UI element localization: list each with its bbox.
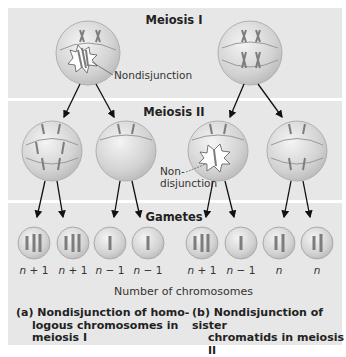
nondisjunction-label-2a: Non- [160, 166, 185, 177]
gamete-label-5: n + 1 [188, 264, 217, 276]
gamete-label-8: n [314, 264, 321, 276]
gamete-label-7: n [276, 264, 283, 276]
gamete-7 [263, 227, 295, 259]
meiosis-2-cell-4 [267, 121, 327, 181]
gamete-label-2: n + 1 [59, 264, 88, 276]
gamete-label-3: n − 1 [96, 264, 125, 276]
gamete-8 [301, 227, 333, 259]
caption-a: (a) Nondisjunction of homo- logous chrom… [16, 307, 189, 345]
nondisjunction-label-1: Nondisjunction [114, 70, 192, 81]
axis-label: Number of chromosomes [114, 286, 253, 297]
meiosis-1-cell-a [56, 21, 120, 85]
gamete-4 [132, 227, 164, 259]
meiosis-1-cell-b [218, 21, 282, 85]
meiosis-2-cell-3 [186, 121, 248, 181]
meiosis-1-title: Meiosis I [145, 13, 202, 27]
meiosis-2-title: Meiosis II [143, 105, 204, 119]
gamete-1 [18, 227, 50, 259]
meiosis-2-cell-2 [96, 121, 156, 181]
gamete-label-4: n − 1 [134, 264, 163, 276]
nondisjunction-label-2b: disjunction [160, 178, 217, 189]
gamete-label-6: n − 1 [227, 264, 256, 276]
meiosis-2-cell-1 [22, 121, 82, 181]
gamete-5 [186, 227, 218, 259]
gametes-title: Gametes [145, 210, 202, 224]
gamete-6 [225, 227, 257, 259]
gamete-label-1: n + 1 [20, 264, 49, 276]
gamete-2 [57, 227, 89, 259]
gamete-3 [94, 227, 126, 259]
caption-b: (b) Nondisjunction of sister chromatids … [192, 307, 346, 357]
gamete-cells [18, 227, 333, 259]
